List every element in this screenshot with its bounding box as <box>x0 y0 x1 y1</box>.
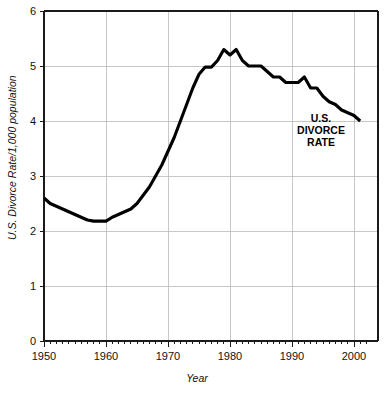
chart-background <box>0 0 386 393</box>
y-tick-label: 3 <box>30 170 36 182</box>
x-tick-label: 1980 <box>218 350 242 362</box>
x-tick-label: 2000 <box>342 350 366 362</box>
callout-line-3: RATE <box>307 136 335 148</box>
y-tick-label: 6 <box>30 5 36 17</box>
y-tick-label: 2 <box>30 225 36 237</box>
y-tick-label: 5 <box>30 60 36 72</box>
divorce-rate-line-chart: 0123456 195019601970198019902000 U.S. Di… <box>0 0 386 393</box>
y-tick-label: 1 <box>30 280 36 292</box>
chart-container: 0123456 195019601970198019902000 U.S. Di… <box>0 0 386 393</box>
x-tick-label: 1960 <box>94 350 118 362</box>
y-tick-label: 4 <box>30 115 36 127</box>
x-axis-title: Year <box>186 372 208 384</box>
callout-line-1: U.S. <box>311 112 332 124</box>
x-tick-label: 1990 <box>280 350 304 362</box>
y-axis-title: U.S. Divorce Rate/1,000 population <box>6 75 18 240</box>
callout-line-2: DIVORCE <box>297 124 345 136</box>
x-tick-label: 1950 <box>32 350 56 362</box>
y-tick-label: 0 <box>30 335 36 347</box>
x-tick-label: 1970 <box>156 350 180 362</box>
